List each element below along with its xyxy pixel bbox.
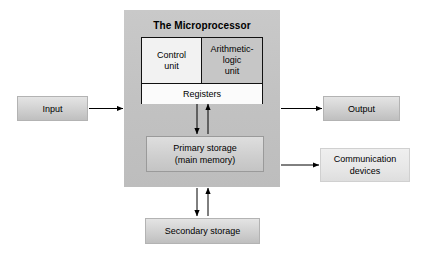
alu-label-line1: Arithmetic- bbox=[211, 44, 254, 55]
control-unit-box: Control unit bbox=[142, 38, 202, 83]
registers-box: Registers bbox=[142, 83, 262, 104]
control-unit-label-line1: Control bbox=[157, 50, 186, 61]
input-label: Input bbox=[42, 103, 62, 115]
microprocessor-title: The Microprocessor bbox=[124, 20, 280, 31]
input-box: Input bbox=[17, 96, 88, 121]
communication-devices-box: Communication devices bbox=[320, 148, 410, 182]
cpu-core-block: Control unit Arithmetic- logic unit Regi… bbox=[141, 37, 263, 104]
control-unit-label-line2: unit bbox=[157, 61, 186, 72]
alu-label-line3: unit bbox=[211, 66, 254, 77]
primary-storage-label-line1: Primary storage bbox=[173, 142, 237, 154]
microprocessor-panel: The Microprocessor Control unit Arithmet… bbox=[124, 10, 280, 187]
arithmetic-logic-unit-box: Arithmetic- logic unit bbox=[202, 38, 262, 83]
primary-storage-box: Primary storage (main memory) bbox=[146, 136, 264, 172]
secondary-storage-label: Secondary storage bbox=[165, 225, 241, 237]
communication-devices-label-line1: Communication bbox=[334, 153, 397, 165]
secondary-storage-box: Secondary storage bbox=[145, 218, 260, 244]
primary-storage-label-line2: (main memory) bbox=[175, 154, 236, 166]
communication-devices-label-line2: devices bbox=[350, 165, 381, 177]
alu-label-line2: logic bbox=[211, 55, 254, 66]
output-label: Output bbox=[348, 103, 375, 115]
diagram-canvas: The Microprocessor Control unit Arithmet… bbox=[0, 0, 426, 253]
output-box: Output bbox=[323, 96, 400, 121]
registers-label: Registers bbox=[183, 89, 221, 99]
cpu-units-row: Control unit Arithmetic- logic unit bbox=[142, 38, 262, 83]
